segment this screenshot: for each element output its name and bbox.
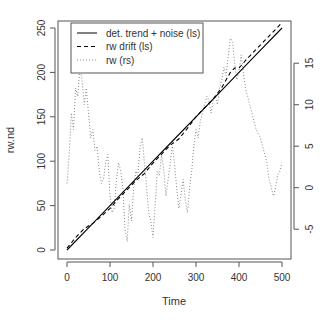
legend-label: det. trend + noise (ls) — [106, 28, 200, 39]
y-tick-label-left: 50 — [36, 200, 47, 212]
y-axis-label: rw.nd — [4, 127, 16, 153]
y-tick-label-left: 100 — [36, 152, 47, 169]
y-tick-label-left: 150 — [36, 108, 47, 125]
y-tick-label-right: -5 — [304, 224, 315, 233]
x-tick-label: 400 — [231, 272, 248, 283]
legend: det. trend + noise (ls)rw drift (ls)rw (… — [71, 23, 203, 73]
y-tick-label-right: 0 — [304, 184, 315, 190]
y-tick-label-left: 250 — [36, 19, 47, 36]
y-tick-label-left: 200 — [36, 64, 47, 81]
legend-label: rw (rs) — [106, 55, 134, 66]
x-tick-label: 300 — [188, 272, 205, 283]
y-tick-label-right: 10 — [304, 99, 315, 111]
x-tick-label: 0 — [64, 272, 70, 283]
y-tick-label-left: 0 — [36, 247, 47, 253]
chart: 0100200300400500 050100150200250 -505101… — [0, 0, 330, 321]
y-tick-label-right: 15 — [304, 57, 315, 69]
legend-label: rw drift (ls) — [106, 41, 153, 52]
y-tick-label-right: 5 — [304, 143, 315, 149]
x-tick-label: 200 — [145, 272, 162, 283]
x-tick-label: 100 — [102, 272, 119, 283]
x-tick-label: 500 — [274, 272, 291, 283]
x-axis-label: Time — [162, 295, 186, 307]
